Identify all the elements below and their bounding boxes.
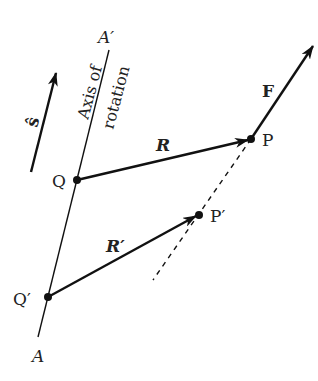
label-Q: Q bbox=[52, 171, 66, 191]
label-F: F bbox=[262, 81, 274, 101]
label-R-prime: R′ bbox=[105, 236, 125, 256]
vector-F-arrow bbox=[251, 46, 313, 139]
label-P-prime: P′ bbox=[210, 206, 225, 226]
point-Q-dot bbox=[73, 176, 81, 184]
label-R: R bbox=[155, 135, 170, 155]
vector-R-prime-arrow bbox=[48, 216, 196, 297]
diagram-canvas: A′ A Axis of rotation ŝ Q Q′ P P′ R R′ F bbox=[0, 0, 318, 381]
label-A: A bbox=[30, 346, 44, 366]
point-P-dot bbox=[247, 135, 255, 143]
label-s-hat: ŝ bbox=[22, 115, 44, 129]
point-Q-prime-dot bbox=[44, 293, 52, 301]
label-A-prime: A′ bbox=[96, 27, 114, 47]
point-P-prime-dot bbox=[195, 211, 203, 219]
label-Q-prime: Q′ bbox=[13, 289, 31, 309]
label-P: P bbox=[262, 130, 273, 150]
line-of-action-dashed bbox=[153, 139, 251, 280]
torque-diagram: A′ A Axis of rotation ŝ Q Q′ P P′ R R′ F bbox=[0, 0, 318, 381]
